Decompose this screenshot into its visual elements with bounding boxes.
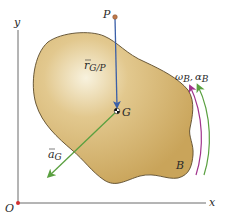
body-label: B xyxy=(175,159,184,172)
origin-dot xyxy=(16,201,20,205)
point-G-label: G xyxy=(122,106,131,119)
origin-label: O xyxy=(5,202,14,215)
a-G-label: aG xyxy=(48,148,62,162)
point-P xyxy=(113,15,118,20)
x-axis-label: x xyxy=(209,196,216,209)
point-P-label: P xyxy=(102,8,111,21)
center-of-mass-marker xyxy=(114,108,120,114)
rigid-body-diagram: y x O B rG/P P aG G ωB,αB xyxy=(0,0,228,220)
y-axis-label: y xyxy=(13,16,21,29)
